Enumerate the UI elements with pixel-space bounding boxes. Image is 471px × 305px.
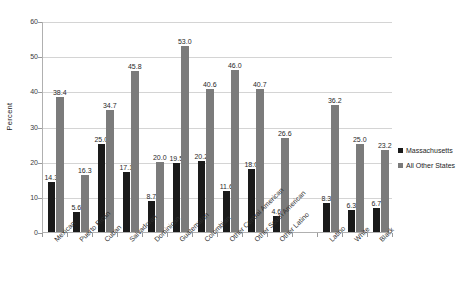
y-axis-tick-label: 10	[4, 194, 38, 202]
legend-item-label: All Other States	[406, 162, 455, 170]
bar-value-label: 40.6	[200, 81, 220, 89]
bar	[81, 175, 89, 232]
bar	[223, 191, 231, 232]
y-axis-tick-label: 50	[4, 53, 38, 61]
bar-value-label: 46.0	[225, 62, 245, 70]
bar-value-label: 38.4	[50, 89, 70, 97]
legend-swatch-icon	[398, 148, 403, 153]
x-axis-tick-mark	[142, 233, 143, 237]
bar-value-label: 45.8	[125, 63, 145, 71]
gridline	[43, 163, 392, 164]
bar	[206, 89, 214, 232]
bar	[156, 162, 164, 232]
bar-value-label: 23.2	[375, 142, 395, 150]
legend-item: Massachusetts	[398, 146, 471, 155]
bar	[56, 97, 64, 232]
y-axis-tick-label: 60	[4, 18, 38, 26]
bar-value-label: 25.0	[350, 136, 370, 144]
legend-item-label: Massachusetts	[406, 147, 453, 155]
x-axis	[42, 233, 392, 238]
x-axis-tick-mark	[92, 233, 93, 237]
x-axis-tick-mark	[367, 233, 368, 237]
x-axis-tick-mark	[342, 233, 343, 237]
bar	[348, 210, 356, 232]
bar	[281, 138, 289, 232]
bar	[356, 144, 364, 232]
x-axis-tick-mark	[217, 233, 218, 237]
x-axis-tick-mark	[192, 233, 193, 237]
bar	[131, 71, 139, 232]
bar	[173, 163, 181, 232]
y-axis-tick-label: 30	[4, 124, 38, 132]
chart-legend: MassachusettsAll Other States	[398, 146, 471, 176]
legend-item: All Other States	[398, 161, 471, 170]
bar	[148, 201, 156, 232]
x-axis-tick-mark	[292, 233, 293, 237]
x-axis-tick-mark	[392, 233, 393, 237]
bar	[98, 144, 106, 232]
gridline	[43, 57, 392, 58]
plot-area: 14.338.45.616.325.034.717.145.88.720.019…	[42, 22, 392, 233]
bar	[381, 150, 389, 232]
y-axis-tick-label: 40	[4, 88, 38, 96]
y-axis-tick-label: 20	[4, 159, 38, 167]
bar	[231, 70, 239, 232]
bar-value-label: 53.0	[175, 38, 195, 46]
bar	[48, 182, 56, 232]
bar-value-label: 36.2	[325, 97, 345, 105]
bar-value-label: 34.7	[100, 102, 120, 110]
gridline	[43, 128, 392, 129]
x-axis-tick-mark	[242, 233, 243, 237]
x-axis-tick-mark	[42, 233, 43, 237]
x-axis-tick-mark	[267, 233, 268, 237]
bar	[248, 169, 256, 232]
bar-value-label: 40.7	[250, 81, 270, 89]
y-axis-tick-label: 0	[4, 229, 38, 237]
x-axis-tick-mark	[167, 233, 168, 237]
bar-value-label: 16.3	[75, 167, 95, 175]
bar	[256, 89, 264, 232]
bar	[181, 46, 189, 232]
gridline	[43, 92, 392, 93]
gridline	[43, 198, 392, 199]
bar	[198, 161, 206, 232]
bar-value-label: 26.6	[275, 130, 295, 138]
bar	[106, 110, 114, 232]
x-axis-tick-mark	[117, 233, 118, 237]
x-axis-tick-mark	[67, 233, 68, 237]
bar-chart: Percent 0102030405060 14.338.45.616.325.…	[0, 0, 471, 305]
bar	[331, 105, 339, 232]
bar	[273, 216, 281, 232]
gridline	[43, 22, 392, 23]
bar	[323, 203, 331, 232]
x-axis-tick-mark	[317, 233, 318, 237]
bar	[73, 212, 81, 232]
y-axis: 0102030405060	[0, 22, 38, 233]
bar	[123, 172, 131, 232]
legend-swatch-icon	[398, 163, 403, 168]
bar	[373, 208, 381, 232]
